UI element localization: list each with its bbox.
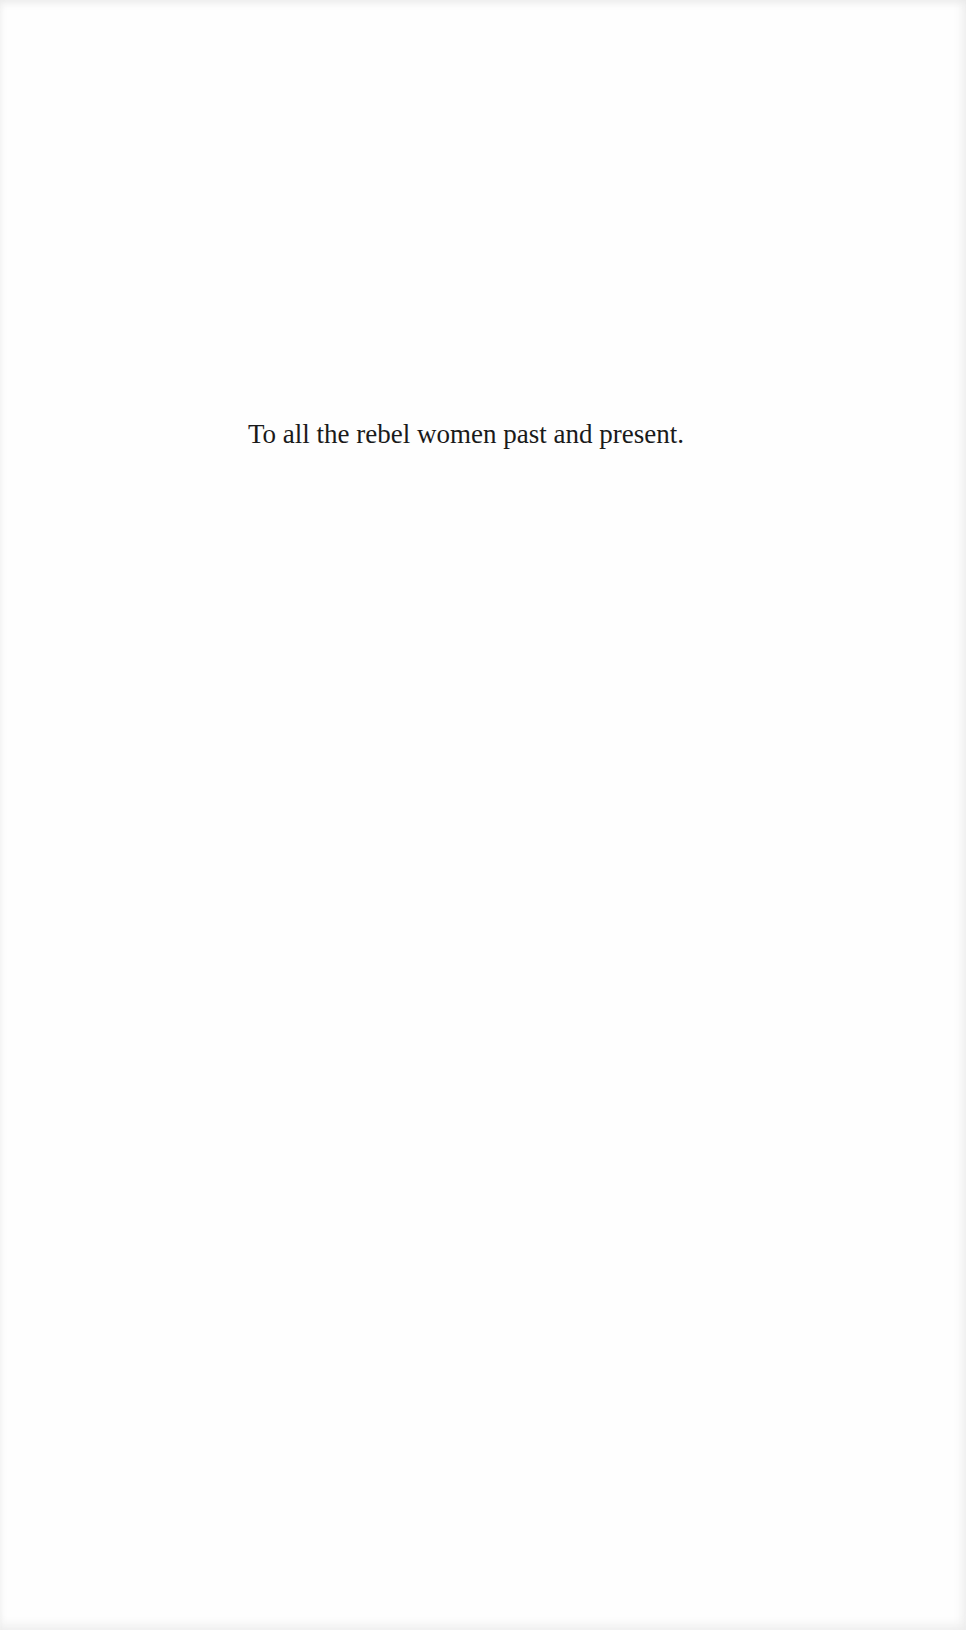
dedication-text: To all the rebel women past and present. (248, 419, 684, 450)
book-page: To all the rebel women past and present. (0, 0, 966, 1630)
